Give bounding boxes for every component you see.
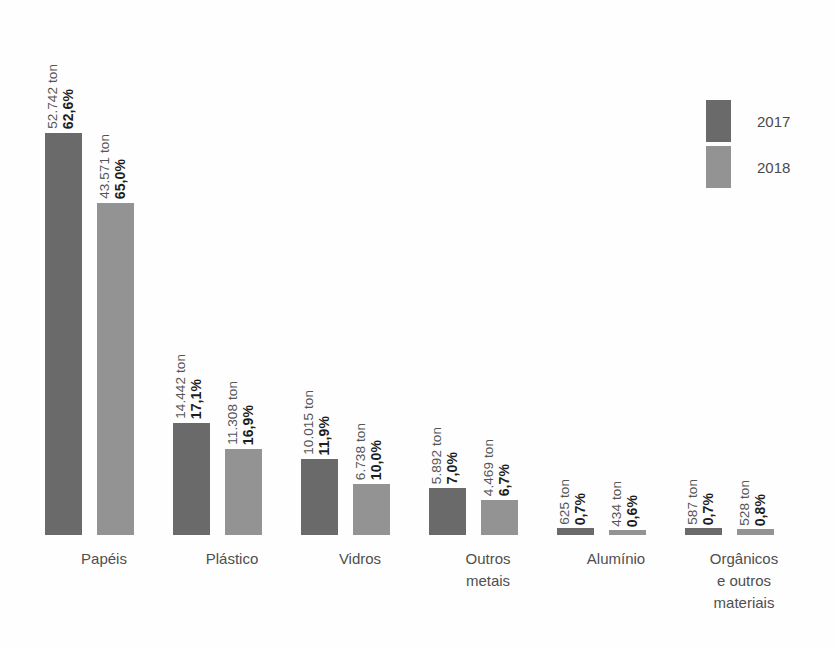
bar-value-label: 4.469 ton [482, 439, 496, 496]
bar-percent-label: 65,0% [113, 159, 127, 199]
bar-value-label: 52.742 ton [46, 64, 60, 129]
bar-group-outros-metais: 5.892 ton 7,0% 4.469 ton 6,7% [429, 65, 547, 535]
legend-item-2018[interactable]: 2018 [706, 144, 826, 190]
bar-value-label: 11.308 ton [226, 381, 240, 445]
bar-percent-label: 62,6% [61, 89, 75, 129]
bar-value-label: 587 ton [686, 479, 700, 525]
bar-aluminio-2018[interactable] [609, 530, 646, 535]
bar-group-aluminio: 625 ton 0,7% 434 ton 0,6% [557, 65, 675, 535]
bar-value-label: 625 ton [558, 479, 572, 525]
bar-value-label: 5.892 ton [430, 427, 444, 484]
bar-percent-label: 0,7% [701, 493, 715, 525]
bar-plastico-2018[interactable] [225, 449, 262, 535]
legend-label: 2017 [757, 113, 790, 130]
bar-organicos-2018[interactable] [737, 529, 774, 535]
category-label-organicos: Orgânicos e outros materiais [670, 548, 818, 613]
grouped-bar-chart: 52.742 ton 62,6% 43.571 ton 65,0% Papéis… [0, 0, 835, 648]
category-label-plastico: Plástico [158, 548, 306, 570]
bar-percent-label: 16,9% [241, 405, 255, 445]
category-label-outros-metais: Outros metais [414, 548, 562, 592]
bar-value-label: 43.571 ton [98, 134, 112, 199]
bar-value-label: 434 ton [610, 481, 624, 527]
bar-percent-label: 17,1% [189, 379, 203, 419]
legend-swatch-icon [706, 100, 731, 142]
bar-percent-label: 11,9% [317, 416, 331, 455]
bar-value-label: 14.442 ton [174, 354, 188, 419]
bar-organicos-2017[interactable] [685, 528, 722, 535]
legend-swatch-icon [706, 146, 731, 188]
bar-percent-label: 6,7% [497, 464, 511, 496]
bar-percent-label: 0,6% [625, 495, 639, 527]
category-label-aluminio: Alumínio [542, 548, 690, 570]
bar-vidros-2018[interactable] [353, 484, 390, 535]
bar-papeis-2018[interactable] [97, 203, 134, 535]
bar-vidros-2017[interactable] [301, 459, 338, 535]
bar-plastico-2017[interactable] [173, 423, 210, 535]
bar-outros-metais-2017[interactable] [429, 488, 466, 535]
bar-group-plastico: 14.442 ton 17,1% 11.308 ton 16,9% [173, 65, 291, 535]
category-label-papeis: Papéis [30, 548, 178, 570]
bar-outros-metais-2018[interactable] [481, 500, 518, 535]
bar-aluminio-2017[interactable] [557, 528, 594, 535]
bar-value-label: 6.738 ton [354, 423, 368, 480]
bar-percent-label: 0,7% [573, 493, 587, 525]
legend-item-2017[interactable]: 2017 [706, 98, 826, 144]
bar-percent-label: 10,0% [369, 440, 383, 480]
bar-group-papeis: 52.742 ton 62,6% 43.571 ton 65,0% [45, 65, 163, 535]
legend-label: 2018 [757, 159, 790, 176]
bar-papeis-2017[interactable] [45, 133, 82, 535]
bar-percent-label: 7,0% [445, 452, 459, 484]
chart-legend: 2017 2018 [706, 98, 826, 190]
bar-value-label: 10.015 ton [302, 390, 316, 455]
bar-group-vidros: 10.015 ton 11,9% 6.738 ton 10,0% [301, 65, 419, 535]
bar-value-label: 528 ton [738, 480, 752, 526]
bar-percent-label: 0,8% [753, 494, 767, 526]
category-label-vidros: Vidros [286, 548, 434, 570]
